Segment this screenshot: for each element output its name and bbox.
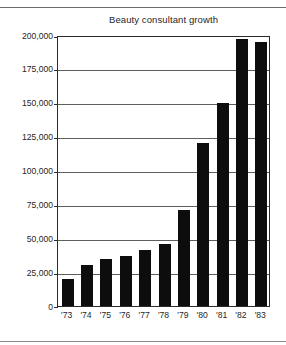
bar <box>139 250 151 306</box>
plot-frame <box>57 36 270 307</box>
x-axis-tick-label: '73 <box>57 310 76 321</box>
page-rule-top <box>0 7 286 8</box>
y-axis-tick-label: 200,000 <box>1 32 53 41</box>
y-axis-tick-label: 125,000 <box>1 133 53 142</box>
bar <box>100 259 112 306</box>
bar <box>120 256 132 306</box>
y-axis-tick-label: 175,000 <box>1 65 53 74</box>
bar <box>255 42 267 306</box>
x-axis-labels: '73'74'75'76'77'78'79'80'81'82'83 <box>57 310 270 324</box>
x-axis-tick-label: '83 <box>251 310 270 321</box>
bar <box>62 279 74 306</box>
y-axis-tick-label: 0 <box>1 303 53 312</box>
x-axis-tick-label: '76 <box>115 310 134 321</box>
x-axis-tick-label: '81 <box>212 310 231 321</box>
x-axis-tick-label: '79 <box>173 310 192 321</box>
y-axis-tick-label: 25,000 <box>1 269 53 278</box>
bars-group <box>58 37 269 306</box>
x-axis-tick-label: '75 <box>96 310 115 321</box>
y-axis-labels: 025,00050,00075,000100,000125,000150,000… <box>0 36 53 307</box>
bar <box>217 103 229 306</box>
y-axis-tick-label: 75,000 <box>1 201 53 210</box>
x-axis-tick-label: '78 <box>154 310 173 321</box>
bar <box>81 265 93 306</box>
bar <box>159 244 171 306</box>
y-axis-tick-label: 50,000 <box>1 235 53 244</box>
y-axis-tick-label: 150,000 <box>1 99 53 108</box>
bar-chart-figure: Beauty consultant growth 025,00050,00075… <box>0 0 286 345</box>
bar <box>236 39 248 306</box>
x-axis-tick-label: '82 <box>231 310 250 321</box>
y-axis-tick-label: 100,000 <box>1 167 53 176</box>
chart-title: Beauty consultant growth <box>57 14 270 26</box>
bar <box>197 143 209 306</box>
x-axis-tick-label: '80 <box>193 310 212 321</box>
x-axis-tick-label: '74 <box>76 310 95 321</box>
plot-area <box>58 37 269 306</box>
page-rule-bottom <box>0 341 286 342</box>
y-tick-mark <box>54 307 58 308</box>
x-axis-tick-label: '77 <box>134 310 153 321</box>
bar <box>178 210 190 306</box>
